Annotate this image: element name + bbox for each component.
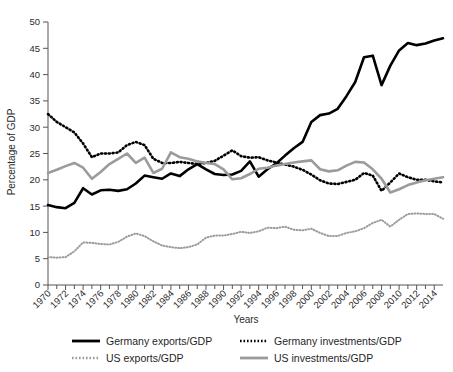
x-tick-label: 2006 [346,288,369,311]
x-tick-label: 1982 [136,288,159,311]
y-axis-title: Percentage of GDP [6,108,17,195]
x-axis: 1970197219741976197819801982198419861988… [30,285,443,310]
legend-label-0: Germany exports/GDP [106,335,212,347]
x-tick-label: 2002 [311,288,334,311]
y-tick-label: 30 [29,122,40,133]
x-tick-label: 2004 [329,288,352,311]
x-tick-label: 2000 [294,288,317,311]
y-tick-label: 40 [29,69,40,80]
series-line-3 [48,152,443,192]
x-tick-label: 1972 [48,288,71,311]
chart-container: Percentage of GDP 05101520253035404550 1… [0,0,453,372]
legend-label-3: US investments/GDP [274,352,373,364]
y-tick-label: 25 [29,148,40,159]
y-tick-label: 45 [29,43,40,54]
x-tick-label: 2012 [399,288,422,311]
x-tick-label: 1970 [30,288,53,311]
x-tick-label: 1978 [100,288,123,311]
x-tick-label: 2010 [381,288,404,311]
chart-legend: Germany exports/GDPGermany investments/G… [72,335,402,364]
x-tick-label: 1974 [65,288,88,311]
series-layer [48,38,443,257]
y-tick-label: 20 [29,174,40,185]
x-tick-label: 1990 [206,288,229,311]
line-chart: Percentage of GDP 05101520253035404550 1… [0,0,453,372]
series-line-2 [48,213,443,257]
x-tick-label: 1994 [241,288,264,311]
y-axis: 05101520253035404550 [29,16,48,290]
x-tick-label: 2014 [416,288,439,311]
y-tick-label: 50 [29,16,40,27]
x-tick-label: 1996 [258,288,281,311]
x-tick-label: 1986 [171,288,194,311]
x-tick-label: 1988 [188,288,211,311]
y-tick-label: 5 [35,253,40,264]
x-tick-label: 2008 [364,288,387,311]
x-tick-label: 1976 [83,288,106,311]
y-tick-label: 15 [29,201,40,212]
legend-label-1: Germany investments/GDP [274,335,402,347]
y-tick-label: 10 [29,227,40,238]
x-tick-label: 1998 [276,288,299,311]
y-tick-label: 35 [29,95,40,106]
legend-label-2: US exports/GDP [106,352,184,364]
y-tick-label: 0 [35,279,40,290]
x-axis-title: Years [233,314,258,325]
x-tick-label: 1980 [118,288,141,311]
x-tick-label: 1992 [223,288,246,311]
x-tick-label: 1984 [153,288,176,311]
series-line-1 [48,114,443,191]
